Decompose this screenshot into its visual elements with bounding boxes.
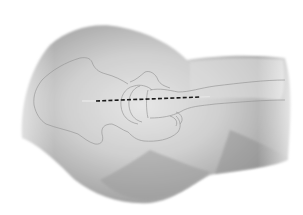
hip-illustration-svg [0,0,303,215]
hip-illustration: Hip region lateral view with incision li… [0,0,303,215]
body-silhouette [0,0,303,215]
